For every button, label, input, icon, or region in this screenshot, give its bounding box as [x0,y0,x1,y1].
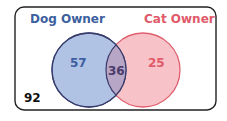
outside-count: 92 [24,91,41,105]
cat-owner-label: Cat Owner [144,12,215,26]
dog-owner-label: Dog Owner [30,12,105,26]
dog-only-count: 57 [70,56,87,70]
cat-only-count: 25 [148,56,165,70]
venn-diagram: Dog Owner Cat Owner 57 36 25 92 [0,0,227,121]
intersection-count: 36 [108,64,125,78]
